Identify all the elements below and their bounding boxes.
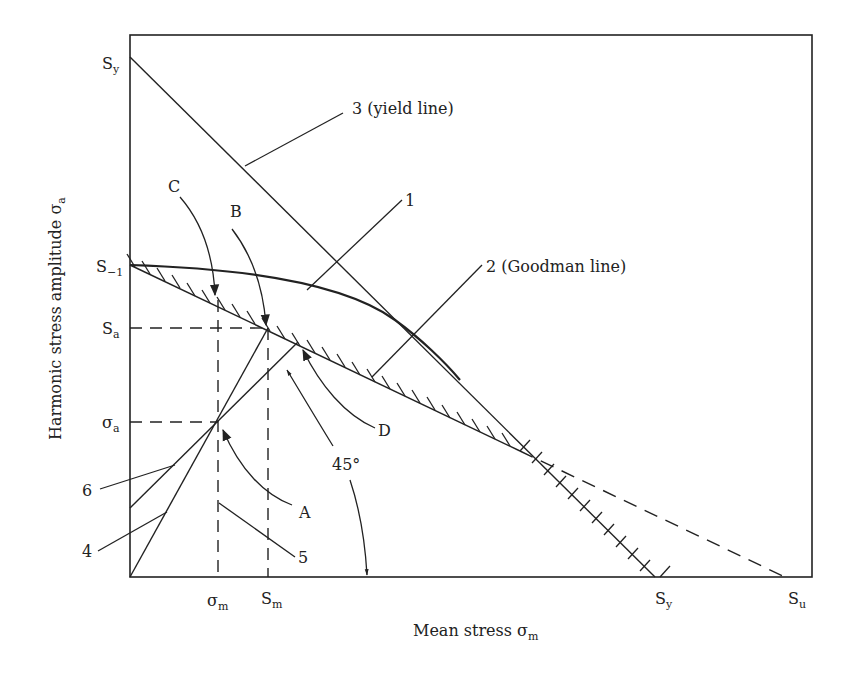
angle-label: 45° (332, 455, 360, 474)
goodman-line (130, 265, 520, 451)
goodman-line-label: 2 (Goodman line) (486, 257, 626, 276)
line-5-label: 5 (298, 548, 308, 567)
point-C-label: C (168, 177, 180, 196)
line-6-label: 6 (82, 481, 92, 500)
load-line-6 (130, 342, 298, 508)
plot-frame (130, 35, 812, 577)
load-line-4 (130, 328, 268, 577)
point-D-label: D (378, 421, 391, 440)
curve-1-label: 1 (405, 191, 415, 210)
curve-1 (130, 265, 460, 380)
point-A-label: A (298, 503, 311, 522)
svg-text:Sm: Sm (261, 589, 283, 611)
svg-text:Sa: Sa (102, 319, 120, 341)
fatigue-diagram: Sy S−1 Sa σa σm Sm Sy Su Mean stress σm … (0, 0, 861, 673)
svg-text:σm: σm (207, 591, 229, 613)
svg-text:Sy: Sy (655, 589, 673, 611)
guide-lines (130, 300, 268, 577)
y-ticks: Sy S−1 Sa σa (96, 54, 123, 435)
x-axis-title: Mean stress σm (413, 621, 539, 643)
goodman-line-dashed (520, 451, 785, 577)
svg-text:Su: Su (788, 589, 806, 611)
svg-text:σa: σa (102, 413, 120, 435)
svg-text:S−1: S−1 (96, 257, 123, 279)
point-B-label: B (230, 202, 242, 221)
svg-text:Sy: Sy (102, 54, 120, 76)
y-axis-title: Harmonic stress amplitude σa (46, 197, 68, 440)
line-4-label: 4 (82, 542, 92, 561)
yield-line-label: 3 (yield line) (352, 99, 454, 118)
x-ticks: σm Sm Sy Su (207, 589, 806, 613)
